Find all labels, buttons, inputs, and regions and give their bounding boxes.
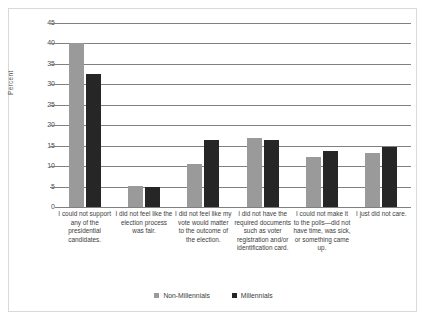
bar (365, 153, 380, 207)
bar (187, 164, 202, 207)
y-axis-tick-labels: 051015202530354045 (27, 23, 55, 207)
chart-legend: Non-MillennialsMillennials (9, 292, 418, 299)
bar (306, 157, 321, 207)
x-axis-category-label: I could not support any of the president… (55, 210, 114, 244)
chart-container: Percent 051015202530354045 I could not s… (8, 8, 417, 312)
x-axis-category-label: I did not feel like the election process… (114, 210, 173, 236)
bar-group (352, 23, 411, 207)
bar-group (114, 23, 173, 207)
bar-group (233, 23, 292, 207)
legend-swatch-icon (232, 293, 237, 298)
bar-group (292, 23, 351, 207)
bar (264, 140, 279, 207)
legend-swatch-icon (154, 293, 159, 298)
legend-item[interactable]: Millennials (232, 292, 273, 299)
legend-label: Millennials (241, 292, 273, 299)
x-axis-category-label: I did not feel like my vote would matter… (174, 210, 233, 244)
bar (247, 138, 262, 208)
bar (69, 43, 84, 207)
legend-item[interactable]: Non-Millennials (154, 292, 209, 299)
bar (128, 186, 143, 207)
legend-label: Non-Millennials (163, 292, 209, 299)
bar-group (55, 23, 114, 207)
y-axis-tick-label: 0 (37, 203, 55, 211)
x-axis-category-label: I could not make it to the polls—did not… (292, 210, 351, 253)
bar (145, 187, 160, 207)
bar (204, 140, 219, 207)
x-axis-category-label: I did not have the required documents su… (233, 210, 292, 253)
plot-area (55, 23, 411, 207)
bar (382, 147, 397, 208)
y-axis-title: Percent (7, 70, 14, 95)
x-axis-category-labels: I could not support any of the president… (55, 210, 411, 286)
bar-group (174, 23, 233, 207)
bar (86, 74, 101, 207)
x-axis-category-label: I just did not care. (352, 210, 411, 219)
bar (323, 151, 338, 207)
x-axis-line (55, 207, 411, 208)
